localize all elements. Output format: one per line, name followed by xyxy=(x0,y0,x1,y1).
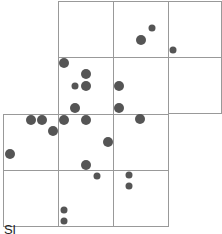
dot xyxy=(114,81,124,91)
dot xyxy=(81,160,91,170)
dot-grid-figure xyxy=(0,0,222,234)
dot xyxy=(5,149,15,159)
dot xyxy=(59,58,69,68)
dot xyxy=(72,83,79,90)
dot xyxy=(135,114,145,124)
dot xyxy=(81,69,91,79)
dot xyxy=(61,218,68,225)
dot xyxy=(48,126,58,136)
dot xyxy=(126,183,133,190)
dots xyxy=(5,25,177,225)
grid-cell xyxy=(169,58,222,114)
grid-cells xyxy=(4,2,222,227)
figure-caption: Sl xyxy=(4,223,16,234)
dot xyxy=(136,35,146,45)
dot xyxy=(126,172,133,179)
dot xyxy=(59,115,69,125)
grid-cell xyxy=(4,171,59,227)
dot xyxy=(170,47,177,54)
dot xyxy=(81,81,91,91)
dot xyxy=(81,115,91,125)
dot xyxy=(114,103,124,113)
dot xyxy=(94,173,101,180)
grid-cell xyxy=(59,171,114,227)
grid-cell xyxy=(114,2,169,58)
dot xyxy=(149,25,156,32)
dot xyxy=(70,103,80,113)
dot xyxy=(26,115,36,125)
dot xyxy=(37,115,47,125)
dot xyxy=(61,207,68,214)
grid-cell xyxy=(114,171,169,227)
grid-cell xyxy=(59,2,114,58)
grid-cell xyxy=(169,2,222,58)
dot xyxy=(103,137,113,147)
